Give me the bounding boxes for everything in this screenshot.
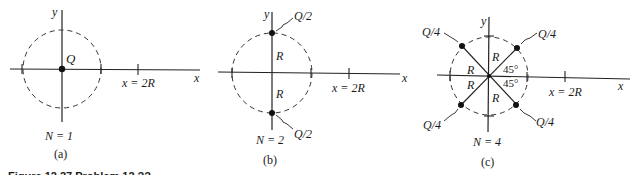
pointer-ul	[444, 33, 458, 42]
charge-dot-ur	[514, 45, 520, 51]
charge-label-bottom: Q/2	[294, 127, 312, 141]
figure-canvas: y Q x = 2R x N = 1 (a) y Q/2 R R x = 2R …	[0, 0, 633, 175]
x-axis-label: x	[193, 71, 200, 85]
radius-label-left-down: R	[466, 78, 475, 92]
x-axis	[437, 75, 630, 79]
pointer-lr	[520, 109, 536, 121]
pointer-ll	[444, 109, 458, 121]
angle-label-upper: 45°	[503, 63, 518, 75]
x-axis-label: x	[617, 79, 624, 93]
panel-a: y Q x = 2R x N = 1 (a)	[10, 5, 200, 161]
x-axis-label-b: x	[401, 71, 408, 85]
angle-label-lower: 45°	[503, 77, 518, 89]
charge-label-ul: Q/4	[422, 25, 440, 39]
charge-label-lr: Q/4	[536, 115, 554, 129]
charge-dot-ll	[458, 102, 464, 108]
radius-label-left-up: R	[466, 63, 475, 77]
charge-label-ll: Q/4	[423, 118, 441, 132]
charge-dot-top	[269, 30, 275, 36]
panel-label: (b)	[263, 153, 277, 167]
tick-label: x = 2R	[548, 85, 582, 99]
panel-label: (c)	[481, 155, 494, 169]
y-axis-label: y	[263, 7, 270, 21]
charge-dot	[59, 66, 65, 72]
x-axis	[10, 69, 200, 70]
panel-c: y Q/4 Q/4 Q/4 Q/4 R R R R 45° 45° x = 2R…	[422, 14, 630, 169]
tick-label: x = 2R	[331, 81, 365, 95]
pointer-top	[276, 18, 293, 31]
origin-dot	[487, 74, 491, 78]
n-label: N = 1	[44, 129, 73, 143]
y-axis-label: y	[51, 5, 58, 19]
charge-dot-bottom	[269, 110, 275, 116]
charge-dot-lr	[513, 102, 519, 108]
y-axis-label: y	[480, 14, 487, 28]
panel-label: (a)	[54, 147, 67, 161]
charge-dot-ul	[459, 43, 465, 49]
panel-b: y Q/2 R R x = 2R Q/2 N = 2 (b)	[218, 7, 400, 167]
pointer-ur	[521, 33, 537, 44]
figure-caption: Figure 12.27 Problem 12.??	[8, 170, 151, 175]
radius-label-up: R	[491, 50, 500, 64]
radius-label-bottom: R	[275, 87, 284, 101]
n-label: N = 2	[255, 133, 284, 147]
charge-label-ur: Q/4	[538, 27, 556, 41]
charge-label-top: Q/2	[294, 9, 312, 23]
n-label: N = 4	[472, 135, 501, 149]
charge-label: Q	[66, 51, 76, 66]
radius-label-down: R	[491, 91, 500, 105]
tick-label: x = 2R	[121, 76, 155, 90]
radius-label-top: R	[275, 49, 284, 63]
x-axis	[218, 72, 400, 74]
pointer-bottom	[276, 115, 293, 129]
